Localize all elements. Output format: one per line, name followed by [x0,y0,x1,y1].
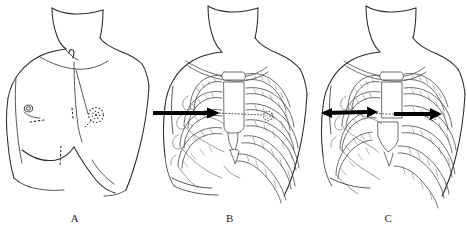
incision-dash-left [30,120,44,122]
panel-a-illustration [0,0,150,210]
target-site-marker [89,108,104,123]
panel-b-illustration [150,0,310,210]
ribs-left-group [331,75,382,194]
target-lead-line [85,120,92,127]
incision-dash-lower [60,146,61,166]
panel-a: A [0,0,150,228]
ribs-left-group [171,75,224,188]
figure-root: A [0,0,467,228]
approach-arrow [153,108,220,119]
panel-c-illustration [310,0,467,210]
left-nipple-marker [24,105,40,118]
panel-b-label: B [150,212,310,224]
midline-dash [72,108,73,118]
panel-a-label: A [0,212,150,224]
panel-b: B [150,0,310,228]
panel-c: C [310,0,467,228]
ribs-right-group [394,73,456,208]
panel-c-label: C [310,212,467,224]
